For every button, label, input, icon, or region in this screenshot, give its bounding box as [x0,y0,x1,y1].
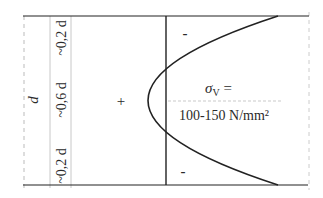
stress-value-label: 100-150 N/mm² [179,108,269,123]
mid-zone-label: ~0,6 d [54,82,69,118]
stress-symbol-label: σV = [205,80,232,98]
stress-distribution-curve [148,16,278,185]
tension-sign: + [117,93,125,109]
bottom-compression-sign: - [181,163,186,179]
top-compression-sign: - [183,25,188,41]
residual-stress-diagram: d ~0,2 d ~0,6 d ~0,2 d - + - σV = 100-15… [0,0,323,198]
bottom-zone-label: ~0,2 d [54,148,69,184]
depth-label: d [25,96,41,104]
top-zone-label: ~0,2 d [54,20,69,56]
equals-sign: = [220,80,232,96]
